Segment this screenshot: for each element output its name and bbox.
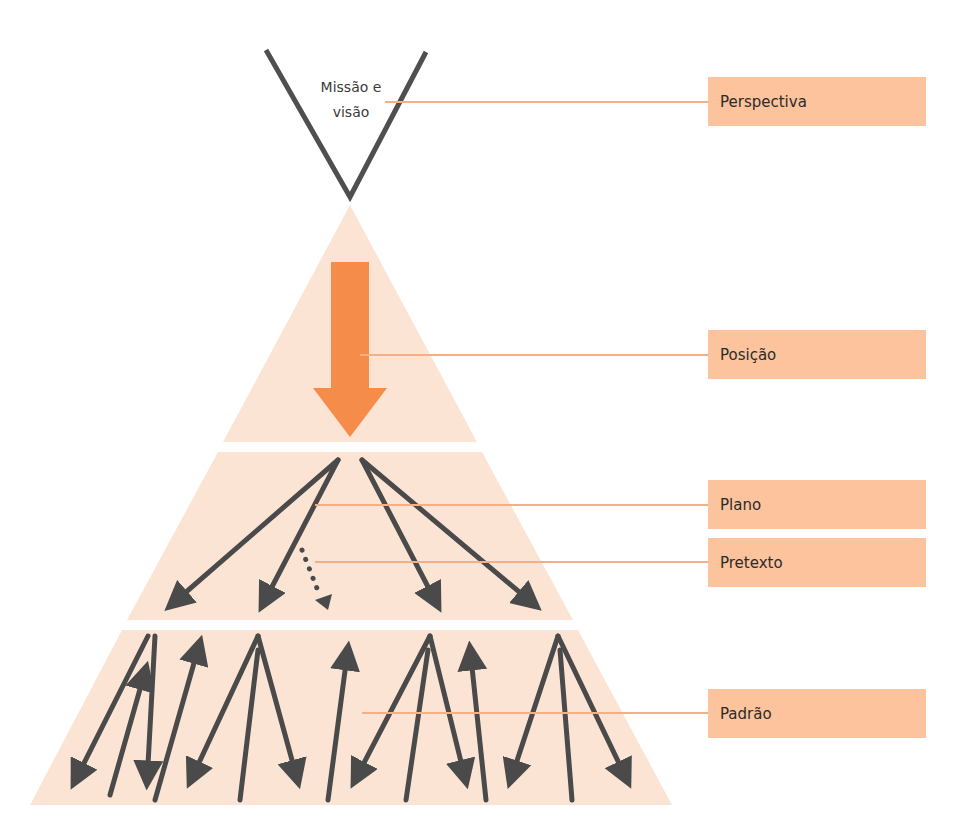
label-padrao: Padrão [708, 689, 926, 738]
label-pretexto: Pretexto [708, 538, 926, 587]
label-perspectiva-text: Perspectiva [720, 93, 807, 111]
mission-vision-line2: visão [296, 100, 406, 125]
pyramid-layer-pattern [30, 630, 672, 805]
label-padrao-text: Padrão [720, 705, 772, 723]
label-posicao-text: Posição [720, 346, 776, 364]
label-posicao: Posição [708, 330, 926, 379]
label-plano-text: Plano [720, 496, 761, 514]
label-plano: Plano [708, 480, 926, 529]
pyramid-layer-plan [127, 452, 573, 620]
label-pretexto-text: Pretexto [720, 554, 783, 572]
mission-vision-label: Missão e visão [296, 75, 406, 125]
mission-vision-line1: Missão e [296, 75, 406, 100]
label-perspectiva: Perspectiva [708, 77, 926, 126]
